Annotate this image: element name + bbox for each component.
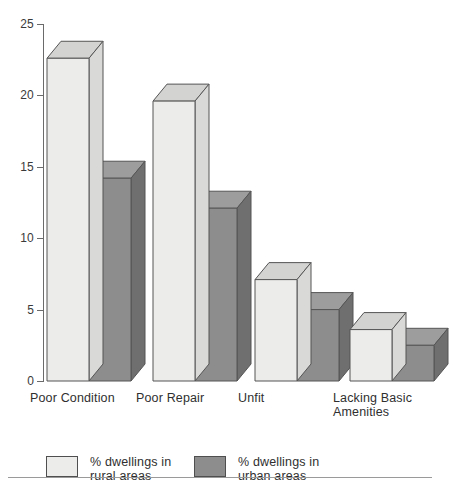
bar-urban-2 — [0, 0, 440, 400]
y-tick-mark — [37, 167, 43, 168]
bar-top-face-rural-0 — [47, 41, 103, 58]
bar-side-face-rural-3 — [392, 313, 406, 381]
bar-rural-2 — [0, 0, 440, 400]
y-tick-mark — [37, 381, 43, 382]
y-tick-label: 5 — [0, 304, 34, 316]
legend-item-urban: % dwellings in urban areas — [194, 455, 319, 483]
footer-divider — [8, 477, 432, 478]
bar-top-face-urban-1 — [195, 191, 251, 208]
y-tick-label-text: 0 — [4, 375, 34, 387]
bar-urban-3 — [0, 0, 440, 400]
bar-front-face-rural-0 — [47, 58, 89, 381]
bar-rural-1 — [0, 0, 440, 400]
y-tick-label: 15 — [0, 161, 34, 173]
category-label-0: Poor Condition — [30, 391, 150, 405]
legend-swatch-urban — [194, 456, 226, 477]
bar-side-face-rural-0 — [89, 41, 103, 381]
y-tick-label: 10 — [0, 232, 34, 244]
y-tick-label-text: 5 — [4, 304, 34, 316]
y-tick-label: 25 — [0, 18, 34, 30]
bar-front-face-urban-0 — [89, 178, 131, 381]
y-tick-mark — [37, 238, 43, 239]
bar-side-face-urban-0 — [131, 161, 145, 381]
bar-side-face-urban-1 — [237, 191, 251, 381]
y-tick-mark — [37, 95, 43, 96]
bar-top-face-urban-0 — [89, 161, 145, 178]
bar-front-face-urban-1 — [195, 208, 237, 381]
legend-item-rural: % dwellings in rural areas — [46, 455, 171, 483]
bar-side-face-urban-3 — [434, 328, 448, 381]
bar-top-face-urban-2 — [297, 293, 353, 310]
bar-front-face-urban-3 — [392, 345, 434, 381]
y-tick-label-text: 25 — [4, 18, 34, 30]
bar-top-face-urban-3 — [392, 328, 448, 345]
bar-top-face-rural-2 — [255, 263, 311, 280]
y-axis-line — [43, 24, 44, 382]
bar-front-face-rural-1 — [153, 101, 195, 381]
y-tick-label: 20 — [0, 89, 34, 101]
bar-side-face-urban-2 — [339, 293, 353, 381]
bar-side-face-rural-2 — [297, 263, 311, 381]
bar-top-face-rural-1 — [153, 84, 209, 101]
y-tick-label-text: 20 — [4, 89, 34, 101]
bar-front-face-rural-2 — [255, 280, 297, 381]
y-tick-label: 0 — [0, 375, 34, 387]
legend-label-rural: % dwellings in rural areas — [90, 455, 171, 483]
plot-area: 2520151050 Poor ConditionPoor RepairUnfi… — [0, 0, 440, 400]
y-tick-mark — [37, 310, 43, 311]
bar-front-face-urban-2 — [297, 310, 339, 381]
bar-side-face-rural-1 — [195, 84, 209, 381]
bar-rural-3 — [0, 0, 440, 400]
legend-label-urban: % dwellings in urban areas — [238, 455, 319, 483]
legend-swatch-rural — [46, 456, 78, 477]
y-tick-mark — [37, 24, 43, 25]
bar-top-face-rural-3 — [350, 313, 406, 330]
y-tick-label-text: 10 — [4, 232, 34, 244]
category-label-3: Lacking Basic Amenities — [333, 391, 453, 419]
bar-urban-0 — [0, 0, 440, 400]
bar-urban-1 — [0, 0, 440, 400]
bar-rural-0 — [0, 0, 440, 400]
bar-front-face-rural-3 — [350, 330, 392, 381]
chart-legend: % dwellings in rural areas % dwellings i… — [0, 440, 440, 488]
y-tick-label-text: 15 — [4, 161, 34, 173]
